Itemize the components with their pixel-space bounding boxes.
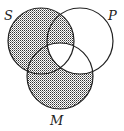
venn-diagram: S P M [0,0,124,131]
shaded-region [8,8,93,109]
label-s: S [4,8,13,23]
label-m: M [49,113,64,128]
label-p: P [107,8,117,23]
